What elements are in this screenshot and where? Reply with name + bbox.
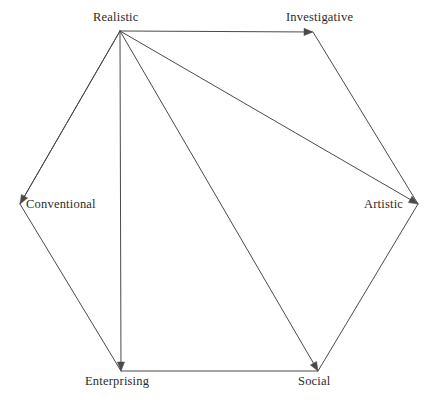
edge-artistic-social: [318, 204, 418, 371]
node-label-enterprising: Enterprising: [85, 375, 149, 388]
edge-realistic-enterprising: [120, 31, 121, 370]
node-label-conventional: Conventional: [26, 198, 96, 211]
node-label-artistic: Artistic: [364, 198, 403, 211]
edge-realistic-social: [120, 31, 317, 370]
node-label-social: Social: [298, 375, 330, 388]
riasec-hexagon-diagram: Realistic Investigative Artistic Social …: [0, 0, 436, 400]
node-label-realistic: Realistic: [93, 11, 139, 24]
edge-enterprising-conventional: [20, 204, 121, 371]
edge-investigative-artistic: [313, 32, 418, 204]
node-label-investigative: Investigative: [286, 11, 353, 24]
arrowhead-realistic-investigative: [304, 28, 313, 35]
arrowhead-realistic-artistic: [408, 196, 418, 204]
edge-realistic-artistic: [120, 31, 417, 203]
edge-realistic-conventional: [21, 31, 120, 203]
arrowhead-realistic-social: [310, 361, 318, 371]
edge-realistic-investigative: [120, 31, 312, 32]
